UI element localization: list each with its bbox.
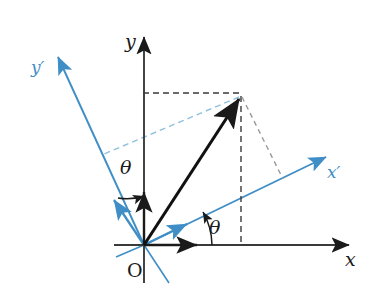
x-axis-label: x	[345, 248, 356, 270]
projection-dash-to-y-prime-axis	[104, 97, 239, 154]
origin-label: O	[127, 259, 143, 281]
y-prime-axis-tail	[144, 245, 169, 283]
rotated-axes-diagram	[0, 0, 380, 300]
y-prime-axis	[58, 57, 144, 245]
principal-axes-group	[114, 37, 349, 283]
theta-label-lower: θ	[209, 216, 220, 238]
y-prime-axis-label: y′	[31, 57, 44, 77]
y-prime-unit-vector	[114, 200, 144, 245]
projection-dash-to-x-prime-axis	[242, 97, 283, 179]
position-vector	[144, 99, 239, 245]
x-prime-axis-tail	[116, 245, 144, 257]
y-axis-label: y	[125, 30, 136, 52]
x-prime-axis-label: x′	[327, 162, 340, 182]
theta-label-upper: θ	[120, 156, 131, 178]
